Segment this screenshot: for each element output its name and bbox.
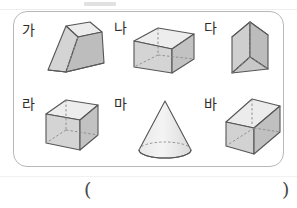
shape-rectangular-prism-wide: [130, 25, 200, 85]
shape-cell-ba: 바: [194, 90, 284, 168]
shape-label-ma: 마: [114, 97, 127, 111]
shape-rectangular-prism-long: [222, 96, 286, 162]
answer-blank[interactable]: ( ): [0, 178, 297, 208]
shape-cube: [42, 96, 108, 160]
shape-cell-na: 나: [106, 14, 196, 92]
scan-artifact-line-top: [0, 9, 297, 10]
shape-label-ba: 바: [204, 97, 217, 111]
shape-label-ga: 가: [22, 23, 35, 37]
shape-cone: [132, 98, 198, 164]
shape-label-da: 다: [204, 21, 217, 35]
shape-label-ra: 라: [22, 97, 35, 111]
shape-cell-ga: 가: [16, 14, 106, 92]
shapes-panel: 가 나: [13, 11, 284, 167]
shape-cell-ma: 마: [106, 90, 196, 168]
shape-cell-da: 다: [194, 14, 284, 92]
shape-triangular-prism: [222, 19, 284, 87]
scan-artifact-smudge: [84, 2, 116, 6]
shape-truncated-pyramid: [40, 20, 110, 88]
shape-label-na: 나: [114, 21, 127, 35]
answer-open-paren: (: [84, 180, 91, 199]
answer-close-paren: ): [282, 180, 289, 199]
scan-artifact-line-bottom: [0, 176, 297, 177]
shape-cell-ra: 라: [16, 90, 106, 168]
